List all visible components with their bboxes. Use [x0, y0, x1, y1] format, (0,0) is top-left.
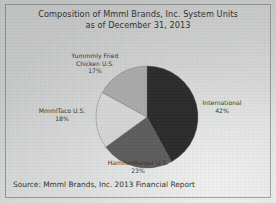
pie-label-mmmltaco-value: 18%: [26, 115, 98, 123]
pie-label-international-value: 42%: [190, 107, 254, 115]
pie-label-yummmly-value: 17%: [57, 67, 133, 75]
pie-label-international: International 42%: [190, 99, 254, 114]
source-note: Source: Mmml Brands, Inc. 2013 Financial…: [13, 180, 195, 189]
pie-label-yummmly-line-1: Yummmly Fried: [57, 52, 133, 60]
pie-label-mmmltaco-us: MmmlTaco U.S. 18%: [26, 107, 98, 122]
pie-label-yummmly-line-2: Chicken U.S.: [57, 60, 133, 68]
pie-slices: [96, 66, 198, 168]
pie-label-international-name: International: [190, 99, 254, 107]
pie-label-yummmly-fried-chicken-us: Yummmly Fried Chicken U.S. 17%: [57, 52, 133, 75]
pie-label-hammmburger-name: Hammmburger U.S.: [93, 159, 183, 167]
pie-label-hammmburger-us: Hammmburger U.S. 23%: [93, 159, 183, 174]
exhibit-page: Composition of Mmml Brands, Inc. System …: [0, 0, 276, 203]
pie-label-mmmltaco-name: MmmlTaco U.S.: [26, 107, 98, 115]
pie-label-hammmburger-value: 23%: [93, 167, 183, 175]
